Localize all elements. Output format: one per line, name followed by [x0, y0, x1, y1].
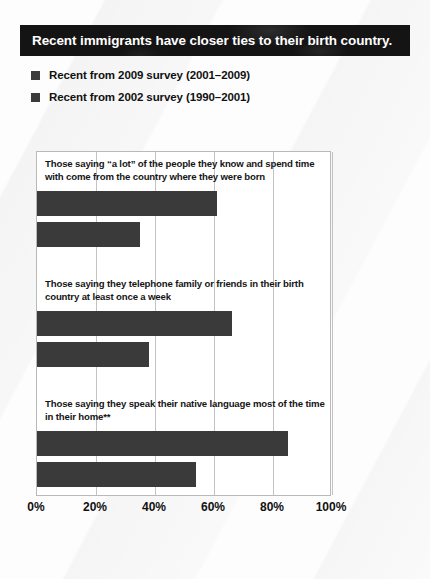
legend-item-label: Recent from 2009 survey (2001–2009): [49, 69, 250, 81]
bar-group-label: Those saying they telephone family or fr…: [45, 277, 326, 303]
bar: [37, 342, 149, 367]
axis-tick-label: 60%: [201, 500, 225, 514]
bar-group-label: Those saying they speak their native lan…: [45, 397, 326, 423]
axis-tick-label: 100%: [316, 500, 347, 514]
bar-group-label: Those saying “a lot” of the people they …: [45, 157, 326, 183]
bar-groups: Those saying “a lot” of the people they …: [37, 152, 330, 495]
legend-swatch-icon: [31, 71, 40, 80]
axis-tick-label: 80%: [260, 500, 284, 514]
chart-legend: Recent from 2009 survey (2001–2009)Recen…: [31, 64, 411, 108]
legend-item: Recent from 2002 survey (1990–2001): [31, 86, 411, 108]
bar: [37, 462, 196, 487]
x-axis-tick-labels: 0%20%40%60%80%100%: [0, 500, 430, 518]
legend-swatch-icon: [31, 93, 40, 102]
plot-area: Those saying “a lot” of the people they …: [36, 151, 331, 496]
legend-item: Recent from 2009 survey (2001–2009): [31, 64, 411, 86]
legend-item-label: Recent from 2002 survey (1990–2001): [49, 91, 250, 103]
page-title: Recent immigrants have closer ties to th…: [32, 33, 392, 48]
chart-title-banner: Recent immigrants have closer ties to th…: [20, 25, 410, 56]
bar-group: Those saying they telephone family or fr…: [37, 277, 330, 367]
bar-group: Those saying they speak their native lan…: [37, 397, 330, 487]
bar-group: Those saying “a lot” of the people they …: [37, 157, 330, 247]
bar: [37, 431, 288, 456]
bar: [37, 311, 232, 336]
bar: [37, 222, 140, 247]
axis-tick-label: 0%: [27, 500, 44, 514]
bar: [37, 191, 217, 216]
axis-tick-label: 40%: [142, 500, 166, 514]
axis-tick-label: 20%: [83, 500, 107, 514]
